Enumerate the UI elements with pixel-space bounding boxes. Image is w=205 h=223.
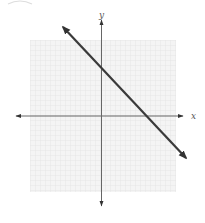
x-axis-label: x [191, 111, 196, 121]
y-axis-label: y [98, 10, 105, 20]
corner-arc-mark [8, 1, 32, 4]
coordinate-plane-graph: x y [0, 0, 205, 223]
